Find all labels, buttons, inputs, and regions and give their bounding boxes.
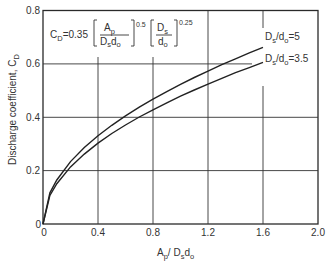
- x-tick-0: 0: [41, 227, 47, 238]
- x-tick-0.4: 0.4: [91, 227, 105, 238]
- x-tick-1.6: 1.6: [256, 227, 270, 238]
- curve-label-ds-do-5: Ds/do=5: [265, 31, 300, 45]
- chart: 0.8 0.6 0.4 0.2 0 0 0.4 0.8 1.2 1.6 2.0 …: [0, 0, 329, 265]
- svg-text:0.5: 0.5: [136, 21, 146, 28]
- svg-text:do: do: [158, 36, 168, 49]
- y-tick-0.4: 0.4: [26, 112, 40, 123]
- svg-text:Ap: Ap: [104, 22, 115, 36]
- curve-label-ds-do-3.5: Ds/do=3.5: [265, 53, 309, 67]
- y-tick-0.8: 0.8: [26, 5, 40, 16]
- svg-text:Dsdo: Dsdo: [100, 36, 121, 49]
- y-tick-0.2: 0.2: [26, 165, 40, 176]
- svg-text:0.25: 0.25: [179, 19, 193, 26]
- x-axis-label: Ap/ Dsdo: [157, 247, 194, 261]
- svg-text:Ds: Ds: [157, 22, 168, 36]
- x-tick-0.8: 0.8: [146, 227, 160, 238]
- svg-text:CD=0.35: CD=0.35: [50, 29, 88, 43]
- y-tick-labels: 0.8 0.6 0.4 0.2 0: [26, 5, 41, 230]
- y-tick-0.6: 0.6: [26, 58, 40, 69]
- formula-annotation: CD=0.35 Ap Dsdo 0.5 Ds do 0.25: [50, 19, 193, 49]
- y-axis-label: Discharge coefficient, CD: [7, 54, 21, 165]
- x-tick-labels: 0 0.4 0.8 1.2 1.6 2.0: [41, 227, 325, 238]
- x-tick-2.0: 2.0: [311, 227, 325, 238]
- x-tick-1.2: 1.2: [201, 227, 215, 238]
